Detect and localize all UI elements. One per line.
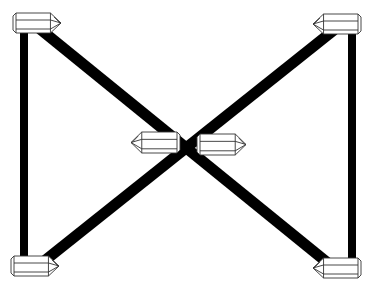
crystal-bottom-left-icon — [11, 256, 59, 276]
crystal-center-left-icon — [131, 132, 180, 153]
crystal-top-left-icon — [13, 13, 61, 33]
connecting-bars — [24, 29, 352, 268]
crystal-bar-diagram — [0, 0, 375, 289]
crystal-center-right-icon — [197, 134, 246, 155]
crystal-top-right-icon — [313, 14, 361, 34]
diagram-canvas: Line-art diagram: six hexagonal crystal … — [0, 0, 375, 289]
crystal-bottom-right-icon — [313, 258, 361, 278]
